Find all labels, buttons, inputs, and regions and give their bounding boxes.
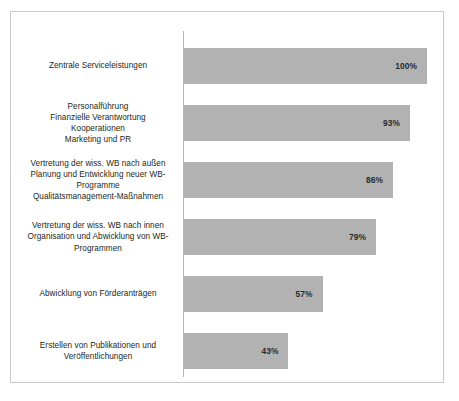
plot-area: Zentrale Serviceleistungen 100% Personal… xyxy=(11,12,443,382)
bar-category-line: Vertretung der wiss. WB nach innen xyxy=(15,220,181,231)
bar-row: Zentrale Serviceleistungen 100% xyxy=(11,48,443,84)
bar-value-label: 43% xyxy=(261,346,288,356)
bar-track: 93% xyxy=(184,105,427,141)
bar-category-line: Planung und Entwicklung neuer WB- xyxy=(15,169,181,180)
bar-category-line: Kooperationen xyxy=(15,123,181,134)
bar-category-line: Zentrale Serviceleistungen xyxy=(15,60,181,71)
bar-value-label: 57% xyxy=(295,289,322,299)
bar-category-line: Finanzielle Verantwortung xyxy=(15,112,181,123)
bar-value-label: 86% xyxy=(366,175,393,185)
bar-category-line: Programmen xyxy=(15,243,181,254)
bar-value-label: 79% xyxy=(349,232,376,242)
bar-category-label: Vertretung der wiss. WB nach innen Organ… xyxy=(15,220,181,254)
bar-category-line: Programme xyxy=(15,180,181,191)
bar-category-line: Personalführung xyxy=(15,101,181,112)
bar[interactable]: 43% xyxy=(184,333,288,369)
bar-track: 79% xyxy=(184,219,427,255)
bar-row: Vertretung der wiss. WB nach innen Organ… xyxy=(11,219,443,255)
bar-value-label: 93% xyxy=(383,118,410,128)
bar-category-label: Zentrale Serviceleistungen xyxy=(15,60,181,71)
bar-category-line: Marketing und PR xyxy=(15,134,181,145)
bar[interactable]: 57% xyxy=(184,276,323,312)
bar-category-line: Qualitätsmanagement-Maßnahmen xyxy=(15,191,181,202)
bar-category-line: Veröffentlichungen xyxy=(15,351,181,362)
bar-category-line: Erstellen von Publikationen und xyxy=(15,340,181,351)
bar-category-label: Vertretung der wiss. WB nach außen Planu… xyxy=(15,158,181,203)
bar-category-line: Organisation und Abwicklung von WB- xyxy=(15,231,181,242)
bar-category-line: Abwicklung von Förderanträgen xyxy=(15,288,181,299)
bar-category-label: Abwicklung von Förderanträgen xyxy=(15,288,181,299)
bar-category-label: Personalführung Finanzielle Verantwortun… xyxy=(15,101,181,146)
bar[interactable]: 79% xyxy=(184,219,376,255)
bar[interactable]: 86% xyxy=(184,162,393,198)
bar-category-line: Vertretung der wiss. WB nach außen xyxy=(15,158,181,169)
bar-row: Abwicklung von Förderanträgen 57% xyxy=(11,276,443,312)
bar-row: Personalführung Finanzielle Verantwortun… xyxy=(11,105,443,141)
bar[interactable]: 93% xyxy=(184,105,410,141)
bar-track: 100% xyxy=(184,48,427,84)
bar-row: Vertretung der wiss. WB nach außen Planu… xyxy=(11,162,443,198)
chart-frame: Zentrale Serviceleistungen 100% Personal… xyxy=(10,11,444,383)
bar-category-label: Erstellen von Publikationen und Veröffen… xyxy=(15,340,181,362)
bar-value-label: 100% xyxy=(395,61,427,71)
bar-track: 43% xyxy=(184,333,427,369)
bar[interactable]: 100% xyxy=(184,48,427,84)
bar-row: Erstellen von Publikationen und Veröffen… xyxy=(11,333,443,369)
bar-track: 57% xyxy=(184,276,427,312)
bar-track: 86% xyxy=(184,162,427,198)
